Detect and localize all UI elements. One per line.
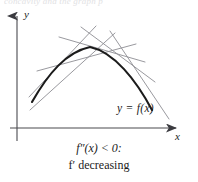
- figure-caption: f″(x) < 0: f′ decreasing: [0, 140, 198, 174]
- caption-line-derivative-decreasing: f′ decreasing: [0, 157, 198, 174]
- axis-label-y: y: [24, 8, 29, 20]
- curve-equation-label: y = f(x): [117, 102, 154, 114]
- tangent-line-4: [59, 37, 145, 62]
- tangent-line-5: [81, 27, 155, 82]
- caption-line-second-derivative: f″(x) < 0:: [0, 140, 198, 157]
- figure-container: concavity and the graph p y x: [0, 0, 198, 182]
- tangent-line-2: [30, 33, 115, 110]
- axes-group: [10, 16, 176, 141]
